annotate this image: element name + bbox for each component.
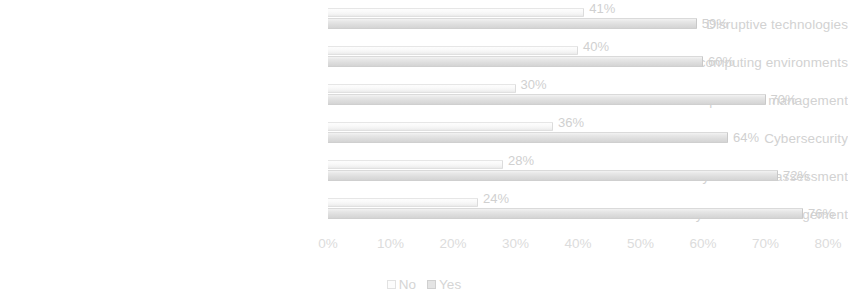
bar-group: 24%76%	[328, 198, 828, 220]
bar-group: 41%59%	[328, 8, 828, 30]
bar-group: 28%72%	[328, 160, 828, 182]
legend-label: Yes	[439, 278, 461, 291]
bar-group: 30%70%	[328, 84, 828, 106]
bar-yes[interactable]	[328, 208, 803, 219]
bar-value-label: 60%	[708, 55, 734, 68]
bar-value-label: 24%	[483, 192, 509, 205]
legend-swatch-icon	[427, 280, 436, 289]
bar-value-label: 70%	[771, 93, 797, 106]
x-axis-tick-label: 80%	[814, 236, 841, 251]
x-axis-tick-label: 60%	[689, 236, 716, 251]
x-axis-tick-label: 30%	[502, 236, 529, 251]
legend-item-no[interactable]: No	[387, 278, 416, 291]
chart-legend: NoYes	[0, 278, 848, 291]
bar-yes[interactable]	[328, 94, 766, 105]
bar-yes[interactable]	[328, 56, 703, 67]
bar-no[interactable]	[328, 46, 578, 55]
bar-chart: Disruptive technologiesCloud and virtual…	[0, 0, 848, 302]
bar-value-label: 59%	[702, 17, 728, 30]
x-axis-tick-label: 50%	[627, 236, 654, 251]
bar-value-label: 41%	[589, 2, 615, 15]
x-axis-tick-label: 10%	[377, 236, 404, 251]
legend-item-yes[interactable]: Yes	[427, 278, 461, 291]
bar-value-label: 64%	[733, 131, 759, 144]
bar-yes[interactable]	[328, 132, 728, 143]
bar-value-label: 36%	[558, 116, 584, 129]
x-axis-tick-label: 0%	[318, 236, 338, 251]
plot-area: 41%59%40%60%30%70%36%64%28%72%24%76%	[328, 0, 828, 232]
legend-swatch-icon	[387, 280, 396, 289]
bar-group: 36%64%	[328, 122, 828, 144]
bar-no[interactable]	[328, 198, 478, 207]
bar-no[interactable]	[328, 8, 584, 17]
bar-value-label: 72%	[783, 169, 809, 182]
bar-value-label: 76%	[808, 207, 834, 220]
bar-value-label: 30%	[521, 78, 547, 91]
bar-yes[interactable]	[328, 18, 697, 29]
bar-value-label: 40%	[583, 40, 609, 53]
bar-yes[interactable]	[328, 170, 778, 181]
legend-label: No	[399, 278, 416, 291]
x-axis-tick-label: 40%	[564, 236, 591, 251]
x-axis-tick-label: 20%	[439, 236, 466, 251]
bar-value-label: 28%	[508, 154, 534, 167]
x-axis: 0%10%20%30%40%50%60%70%80%	[328, 236, 828, 258]
x-axis-tick-label: 70%	[752, 236, 779, 251]
bar-no[interactable]	[328, 160, 503, 169]
bar-no[interactable]	[328, 84, 516, 93]
bar-no[interactable]	[328, 122, 553, 131]
bar-group: 40%60%	[328, 46, 828, 68]
